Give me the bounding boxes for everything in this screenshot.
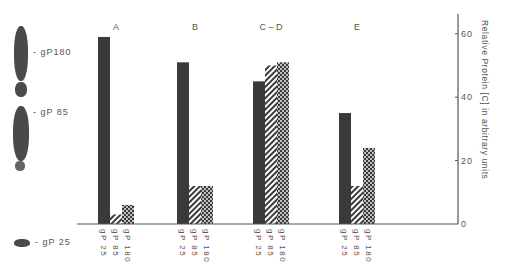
y-tick-label: 40 bbox=[461, 92, 473, 102]
group-label: B bbox=[192, 22, 198, 32]
group-label: A bbox=[113, 22, 119, 32]
bar-label: gP 85 bbox=[190, 229, 199, 257]
bar-label: gP 25 bbox=[340, 229, 349, 257]
bar bbox=[110, 214, 122, 224]
bar-labels: gP 25gP 85gP 180gP 25gP 85gP 180gP 25gP … bbox=[99, 229, 373, 263]
bar-label: gP 180 bbox=[278, 229, 287, 263]
bar-label: gP 85 bbox=[266, 229, 275, 257]
bar bbox=[201, 186, 213, 224]
bar bbox=[277, 62, 289, 224]
group-label: C – D bbox=[259, 22, 283, 32]
y-axis-label: Relative Protein [C] in arbitrary units bbox=[480, 20, 490, 179]
bar bbox=[98, 37, 110, 224]
y-tick-label: 60 bbox=[461, 29, 473, 39]
y-tick-label: 0 bbox=[461, 219, 467, 229]
bar-chart: 0204060 ABC – DE gP 25gP 85gP 180gP 25gP… bbox=[0, 0, 511, 278]
y-tick-label: 20 bbox=[461, 156, 473, 166]
bar-label: gP 25 bbox=[254, 229, 263, 257]
bar bbox=[177, 62, 189, 224]
bar-label: gP 180 bbox=[364, 229, 373, 263]
group-labels: ABC – DE bbox=[113, 22, 360, 32]
bar bbox=[253, 81, 265, 224]
bar-label: gP 180 bbox=[202, 229, 211, 263]
bar-label: gP 85 bbox=[111, 229, 120, 257]
bar bbox=[122, 205, 134, 224]
bar bbox=[339, 113, 351, 224]
bars-layer bbox=[98, 37, 375, 224]
bar-label: gP 25 bbox=[178, 229, 187, 257]
group-label: E bbox=[354, 22, 360, 32]
bar bbox=[363, 148, 375, 224]
bar-label: gP 180 bbox=[123, 229, 132, 263]
bar bbox=[265, 66, 277, 225]
bar-label: gP 25 bbox=[99, 229, 108, 257]
bar bbox=[189, 186, 201, 224]
bar bbox=[351, 186, 363, 224]
bar-label: gP 85 bbox=[352, 229, 361, 257]
